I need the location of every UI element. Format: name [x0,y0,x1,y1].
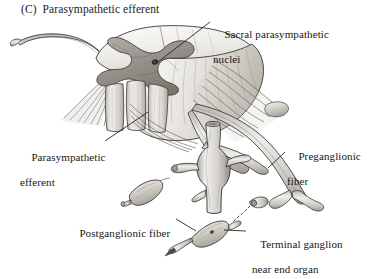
label-parasympathetic-efferent: Parasympathetic efferent [20,138,106,213]
label-parasympathetic-efferent-line2: efferent [20,176,106,189]
leader-postganglionic-fiber [176,219,196,231]
dashed-fiber-continuation [233,206,250,222]
detached-ganglion [121,178,170,206]
label-preganglionic-fiber-line2: fiber [287,175,361,188]
label-terminal-ganglion-line2: near end organ [249,263,343,276]
label-postganglionic-fiber-line1: Postganglionic fiber [79,227,170,239]
label-sacral-nuclei-line1: Sacral parasympathetic [224,28,329,40]
label-preganglionic-fiber-line1: Preganglionic [298,150,360,162]
figure-title: (C) Parasympathetic efferent [21,3,159,16]
vessel-branch-lower [192,190,206,202]
label-terminal-ganglion: Terminal ganglion near end organ [249,225,343,279]
white-matter-columns [105,81,168,133]
label-terminal-ganglion-line1: Terminal ganglion [260,238,343,250]
terminal-ganglion [165,221,241,256]
label-parasympathetic-efferent-line1: Parasympathetic [31,151,105,163]
label-sacral-nuclei-line2: nuclei [213,53,329,66]
label-sacral-parasympathetic-nuclei: Sacral parasympathetic nuclei [213,15,329,90]
label-postganglionic-fiber: Postganglionic fiber [68,214,170,252]
root-ganglion-bead [265,102,289,117]
preganglionic-fiber-stump [250,197,269,208]
label-preganglionic-fiber: Preganglionic fiber [287,137,361,212]
